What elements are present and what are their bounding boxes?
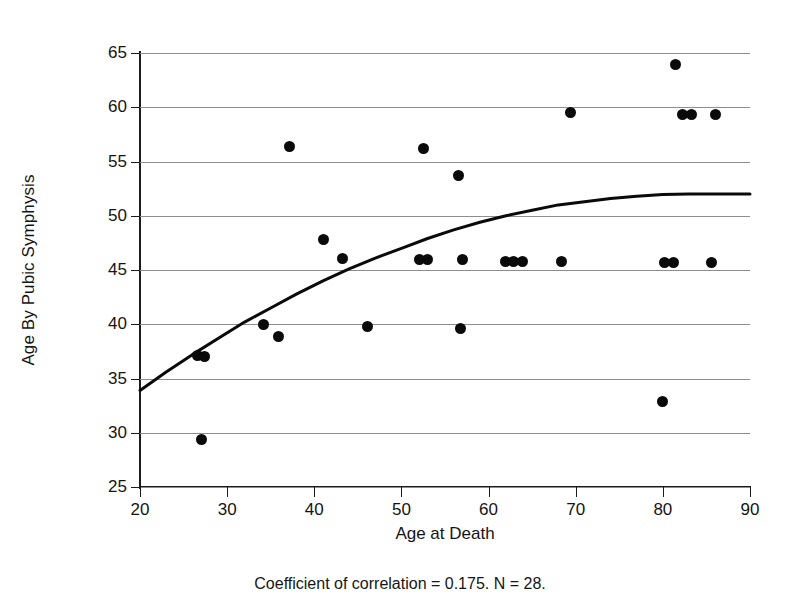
x-tick-50 — [401, 487, 402, 497]
x-tick-label-20: 20 — [131, 500, 150, 520]
y-tick-50 — [131, 216, 140, 217]
figure-caption: Coefficient of correlation = 0.175. N = … — [0, 575, 800, 593]
gridline-y-65 — [140, 53, 750, 54]
data-point — [273, 331, 284, 342]
gridline-y-30 — [140, 433, 750, 434]
data-point — [418, 143, 429, 154]
y-tick-55 — [131, 162, 140, 163]
data-point — [284, 141, 295, 152]
x-tick-20 — [140, 487, 141, 497]
x-tick-label-50: 50 — [392, 500, 411, 520]
data-point — [565, 107, 576, 118]
x-tick-90 — [750, 487, 751, 497]
y-tick-40 — [131, 324, 140, 325]
data-point — [457, 254, 468, 265]
x-tick-40 — [314, 487, 315, 497]
data-point — [455, 323, 466, 334]
y-tick-label-55: 55 — [108, 152, 127, 172]
y-tick-60 — [131, 107, 140, 108]
data-point — [670, 59, 681, 70]
y-tick-30 — [131, 433, 140, 434]
gridline-y-25 — [140, 487, 750, 488]
x-tick-60 — [489, 487, 490, 497]
gridline-y-35 — [140, 379, 750, 380]
y-tick-label-35: 35 — [108, 369, 127, 389]
data-point — [668, 257, 679, 268]
y-tick-25 — [131, 487, 140, 488]
x-tick-label-70: 70 — [566, 500, 585, 520]
data-point — [710, 109, 721, 120]
y-tick-label-40: 40 — [108, 314, 127, 334]
gridline-y-40 — [140, 324, 750, 325]
x-tick-label-60: 60 — [479, 500, 498, 520]
data-point — [196, 434, 207, 445]
data-point — [318, 234, 329, 245]
gridline-y-45 — [140, 270, 750, 271]
y-tick-label-65: 65 — [108, 43, 127, 63]
x-tick-label-80: 80 — [653, 500, 672, 520]
y-tick-label-30: 30 — [108, 423, 127, 443]
gridline-y-60 — [140, 107, 750, 108]
plot-area: 253035404550556065 2030405060708090 — [140, 53, 750, 487]
data-point — [706, 257, 717, 268]
data-point — [362, 321, 373, 332]
data-point — [453, 170, 464, 181]
scatter-plot-figure: Age By Pubic Symphysis Age at Death Coef… — [0, 0, 800, 612]
x-tick-label-90: 90 — [741, 500, 760, 520]
y-tick-35 — [131, 379, 140, 380]
data-point — [258, 319, 269, 330]
y-tick-label-25: 25 — [108, 477, 127, 497]
x-axis-title: Age at Death — [140, 524, 750, 544]
x-tick-label-40: 40 — [305, 500, 324, 520]
x-tick-70 — [576, 487, 577, 497]
data-point — [517, 256, 528, 267]
data-point — [686, 109, 697, 120]
x-tick-80 — [663, 487, 664, 497]
y-tick-label-45: 45 — [108, 260, 127, 280]
y-tick-label-50: 50 — [108, 206, 127, 226]
data-point — [199, 351, 210, 362]
data-point — [556, 256, 567, 267]
y-tick-label-60: 60 — [108, 97, 127, 117]
data-point — [337, 253, 348, 264]
y-axis-title: Age By Pubic Symphysis — [14, 40, 44, 500]
data-point — [422, 254, 433, 265]
gridline-y-55 — [140, 162, 750, 163]
gridline-y-50 — [140, 216, 750, 217]
x-tick-30 — [227, 487, 228, 497]
y-tick-65 — [131, 53, 140, 54]
x-tick-label-30: 30 — [218, 500, 237, 520]
data-point — [657, 396, 668, 407]
y-tick-45 — [131, 270, 140, 271]
